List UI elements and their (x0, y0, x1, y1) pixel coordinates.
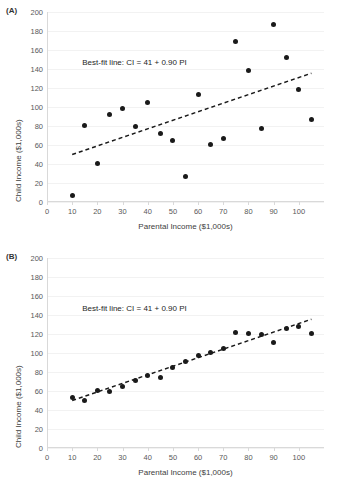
x-tick-label: 60 (194, 207, 202, 216)
data-point (296, 324, 301, 329)
data-point (196, 353, 201, 358)
data-point (133, 378, 138, 383)
x-tick-mark (274, 448, 275, 451)
x-tick-mark (47, 202, 48, 205)
data-point (158, 131, 163, 136)
panel-a-data-points (47, 12, 324, 202)
data-point (120, 106, 125, 111)
x-tick-label: 90 (269, 207, 277, 216)
y-tick-label: 40 (35, 406, 43, 415)
x-tick-label: 100 (293, 207, 306, 216)
data-point (246, 68, 251, 73)
panel-a-plot-area: 020406080100120140160180200 010203040506… (47, 12, 324, 202)
panel-b: (B) Child Income ($1,000s) 0204060801001… (0, 246, 337, 491)
data-point (221, 346, 226, 351)
x-tick-mark (299, 448, 300, 451)
panel-b-data-points (47, 258, 324, 448)
panel-a-x-axis-title: Parental Income ($1,000s) (47, 222, 324, 231)
panel-b-label: (B) (6, 252, 17, 261)
x-tick-mark (173, 202, 174, 205)
x-tick-label: 50 (169, 207, 177, 216)
x-tick-mark (274, 202, 275, 205)
data-point (145, 100, 150, 105)
x-tick-mark (223, 448, 224, 451)
y-tick-label: 120 (30, 330, 43, 339)
data-point (309, 117, 314, 122)
x-tick-mark (47, 448, 48, 451)
x-tick-mark (148, 202, 149, 205)
y-tick-label: 120 (30, 84, 43, 93)
panel-a-annotation: Best-fit line: CI = 41 + 0.90 PI (82, 58, 187, 67)
x-tick-mark (97, 202, 98, 205)
x-tick-label: 60 (194, 453, 202, 462)
y-tick-label: 100 (30, 103, 43, 112)
x-tick-mark (248, 448, 249, 451)
y-tick-label: 100 (30, 349, 43, 358)
x-tick-mark (198, 202, 199, 205)
data-point (309, 331, 314, 336)
y-tick-label: 60 (35, 387, 43, 396)
x-tick-mark (248, 202, 249, 205)
data-point (259, 126, 264, 131)
panel-a-label: (A) (6, 6, 17, 15)
y-tick-label: 180 (30, 27, 43, 36)
data-point (70, 395, 75, 400)
x-tick-mark (173, 448, 174, 451)
data-point (170, 138, 175, 143)
x-tick-mark (123, 202, 124, 205)
x-tick-label: 0 (45, 207, 49, 216)
data-point (158, 375, 163, 380)
x-tick-mark (198, 448, 199, 451)
y-tick-label: 0 (39, 198, 43, 207)
x-tick-label: 90 (269, 453, 277, 462)
y-tick-label: 40 (35, 160, 43, 169)
data-point (70, 193, 75, 198)
data-point (233, 39, 238, 44)
x-tick-label: 30 (118, 207, 126, 216)
x-tick-label: 40 (144, 453, 152, 462)
x-tick-label: 10 (68, 453, 76, 462)
data-point (120, 384, 125, 389)
panel-b-annotation: Best-fit line: CI = 41 + 0.90 PI (82, 304, 187, 313)
x-tick-label: 30 (118, 453, 126, 462)
panel-a-y-axis-title: Child Income ($1,000s) (14, 119, 23, 202)
x-tick-label: 80 (244, 207, 252, 216)
panel-b-x-axis-title: Parental Income ($1,000s) (47, 468, 324, 477)
data-point (107, 112, 112, 117)
y-tick-label: 200 (30, 254, 43, 263)
x-tick-label: 70 (219, 207, 227, 216)
x-tick-label: 100 (293, 453, 306, 462)
data-point (95, 388, 100, 393)
data-point (296, 87, 301, 92)
data-point (82, 123, 87, 128)
panel-b-y-axis-title: Child Income ($1,000s) (14, 365, 23, 448)
data-point (233, 330, 238, 335)
y-tick-label: 140 (30, 311, 43, 320)
data-point (145, 373, 150, 378)
x-tick-mark (123, 448, 124, 451)
y-tick-label: 160 (30, 292, 43, 301)
y-tick-label: 200 (30, 8, 43, 17)
x-tick-mark (299, 202, 300, 205)
y-tick-label: 60 (35, 141, 43, 150)
gridline (47, 202, 324, 203)
data-point (95, 161, 100, 166)
gridline (47, 448, 324, 449)
data-point (196, 92, 201, 97)
data-point (259, 332, 264, 337)
data-point (183, 359, 188, 364)
y-tick-label: 140 (30, 65, 43, 74)
x-tick-mark (148, 448, 149, 451)
x-tick-mark (223, 202, 224, 205)
x-tick-label: 50 (169, 453, 177, 462)
y-tick-label: 80 (35, 122, 43, 131)
x-tick-label: 10 (68, 207, 76, 216)
data-point (208, 142, 213, 147)
x-tick-label: 20 (93, 453, 101, 462)
data-point (284, 326, 289, 331)
figure-container: (A) Child Income ($1,000s) 0204060801001… (0, 0, 337, 491)
data-point (170, 365, 175, 370)
y-tick-label: 160 (30, 46, 43, 55)
data-point (133, 124, 138, 129)
x-tick-mark (72, 202, 73, 205)
